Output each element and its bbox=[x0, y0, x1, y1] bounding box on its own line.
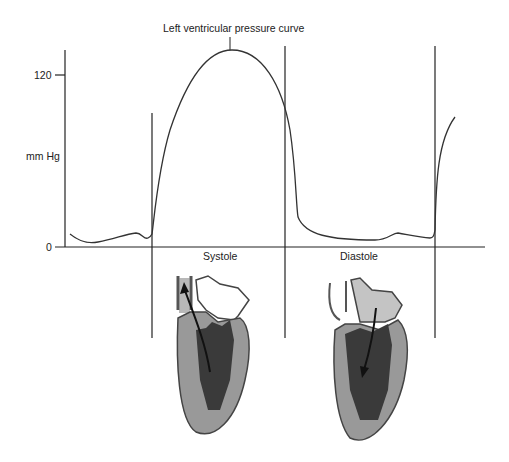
pressure-chart bbox=[0, 0, 509, 462]
systole-label: Systole bbox=[203, 250, 237, 262]
y-axis-label: mm Hg bbox=[26, 150, 60, 162]
systole-heart-illustration bbox=[177, 276, 249, 434]
diastole-label: Diastole bbox=[340, 250, 378, 262]
diastole-heart-illustration bbox=[329, 278, 407, 440]
pressure-curve bbox=[70, 50, 455, 243]
y-tick-120-label: 120 bbox=[34, 69, 52, 81]
chart-title: Left ventricular pressure curve bbox=[163, 22, 304, 34]
diagram: Left ventricular pressure curve mm Hg 12… bbox=[0, 0, 509, 462]
y-tick-0-label: 0 bbox=[46, 241, 52, 253]
